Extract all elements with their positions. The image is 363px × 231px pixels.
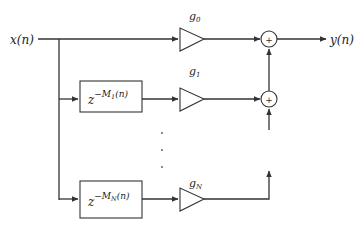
ellipsis-dot-2 bbox=[161, 149, 163, 151]
ellipsis-dot-1 bbox=[161, 132, 163, 134]
gain-label-0: g0 bbox=[189, 10, 201, 24]
gain-label-n: gN bbox=[189, 177, 203, 191]
gain-triangle-n bbox=[180, 188, 204, 211]
gain-label-1: g1 bbox=[189, 65, 201, 79]
tapped-delay-line-diagram: x(n) z−M1(n) z−MN(n) g0 g1 gN + + bbox=[0, 0, 363, 231]
input-label: x(n) bbox=[10, 33, 34, 47]
ellipsis-dot-3 bbox=[161, 166, 163, 168]
summer-1-plus: + bbox=[265, 95, 273, 105]
summer-0-plus: + bbox=[265, 35, 273, 45]
gain-triangle-0 bbox=[180, 28, 204, 51]
gain-triangle-1 bbox=[180, 88, 204, 111]
gainn-riser-line bbox=[204, 171, 269, 199]
output-label: y(n) bbox=[329, 33, 354, 47]
